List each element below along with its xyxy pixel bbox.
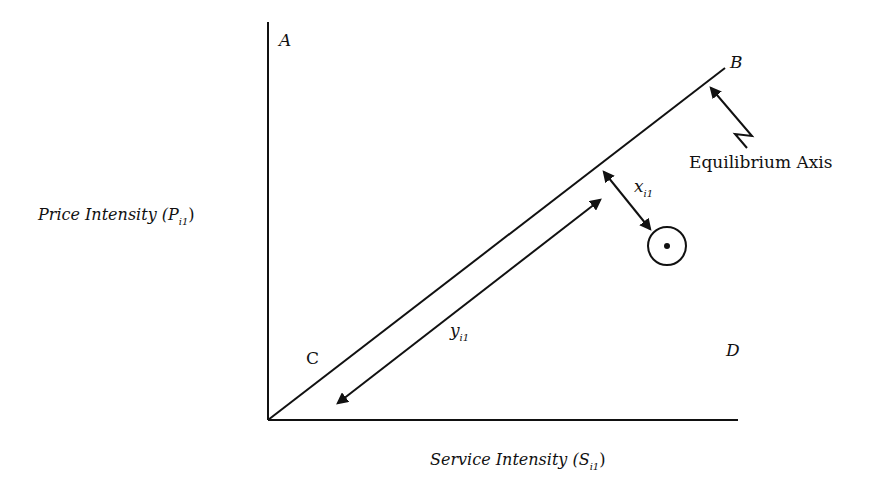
y-axis-title: Price Intensity (Pi1) <box>38 205 195 224</box>
equilibrium-pointer-arrow <box>711 88 752 148</box>
data-point-dot <box>664 243 670 249</box>
region-label-d: D <box>726 340 740 360</box>
region-label-c: C <box>306 348 319 368</box>
diagram-canvas <box>0 0 885 494</box>
x-axis-title: Service Intensity (Si1) <box>430 450 605 469</box>
equilibrium-axis-label: Equilibrium Axis <box>689 152 833 172</box>
x-distance-label: xi1 <box>634 176 653 196</box>
y-distance-label: yi1 <box>450 320 469 340</box>
equilibrium-axis-line <box>268 68 725 420</box>
region-label-a: A <box>279 30 291 50</box>
y-distance-arrow <box>338 200 600 403</box>
region-label-b: B <box>730 52 743 72</box>
